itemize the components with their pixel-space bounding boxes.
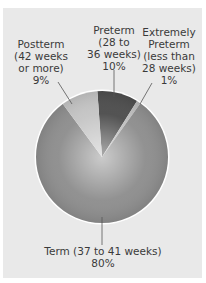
label-text: Postterm [12, 38, 70, 50]
label-percent: 80% [40, 257, 166, 269]
label-text: 36 weeks) [84, 48, 144, 60]
label-text: (less than [138, 50, 200, 62]
label-postterm: Postterm (42 weeks or more) 9% [12, 38, 70, 86]
label-text: Preterm [138, 38, 200, 50]
label-percent: 1% [138, 74, 200, 86]
label-percent: 10% [84, 60, 144, 72]
label-preterm: Preterm (28 to 36 weeks) 10% [84, 24, 144, 72]
label-text: Preterm [84, 24, 144, 36]
label-text: or more) [12, 62, 70, 74]
label-text: Term (37 to 41 weeks) [40, 245, 166, 257]
label-text: 28 weeks) [138, 62, 200, 74]
leader-extremely [140, 83, 152, 104]
label-term: Term (37 to 41 weeks) 80% [40, 245, 166, 269]
label-text: (42 weeks [12, 50, 70, 62]
label-percent: 9% [12, 74, 70, 86]
label-text: Extremely [138, 26, 200, 38]
label-text: (28 to [84, 36, 144, 48]
label-extremely-preterm: Extremely Preterm (less than 28 weeks) 1… [138, 26, 200, 86]
